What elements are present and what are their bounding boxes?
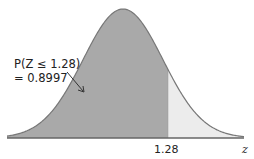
tick-label-1-28: 1.28 xyxy=(154,143,179,157)
annotation-line-2: = 0.8997 xyxy=(14,71,68,85)
probability-annotation: P(Z ≤ 1.28) = 0.8997 xyxy=(14,57,80,85)
unshaded-tail-right xyxy=(168,69,244,138)
axis-label-z: z xyxy=(242,143,248,157)
annotation-line-1: P(Z ≤ 1.28) xyxy=(14,57,80,71)
